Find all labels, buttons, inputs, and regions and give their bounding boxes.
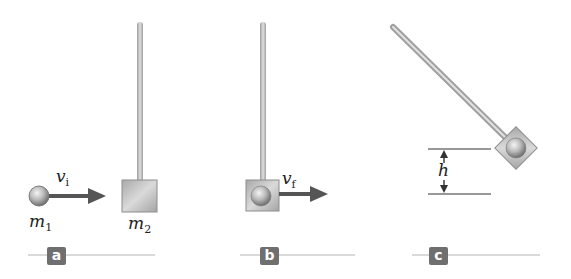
arrowhead-vi xyxy=(88,188,106,204)
height-arrow-up xyxy=(440,150,448,158)
panel-tag-a: a xyxy=(47,247,66,265)
height-arrow-down xyxy=(440,185,448,193)
label-h: h xyxy=(438,160,449,180)
ball-m1 xyxy=(29,186,49,206)
pendulum-diagram xyxy=(0,0,571,279)
panel-c xyxy=(393,27,540,255)
ball-in-block xyxy=(251,186,271,206)
rod-b xyxy=(260,22,266,182)
label-m2: m2 xyxy=(128,213,151,236)
rod-a xyxy=(137,22,143,182)
label-vf: vf xyxy=(282,168,296,191)
label-m1: m1 xyxy=(29,211,52,234)
arrowhead-vf xyxy=(310,186,328,202)
panel-b xyxy=(240,22,355,255)
block-m2 xyxy=(122,180,157,212)
label-vi: vi xyxy=(56,166,69,189)
ball-raised xyxy=(506,138,526,158)
panel-tag-c: c xyxy=(429,247,448,265)
panel-tag-b: b xyxy=(260,247,279,265)
